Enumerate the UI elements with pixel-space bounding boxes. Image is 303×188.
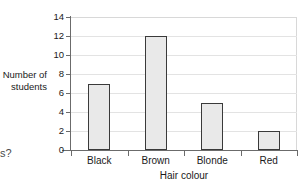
gridline-12 [71,36,297,37]
x-tick-label-black: Black [71,155,128,167]
y-tick-mark-10 [66,55,71,56]
y-tick-label-14: 14 [44,12,64,22]
y-tick-label-8: 8 [44,69,64,79]
bar-brown [145,36,167,150]
y-tick-label-10: 10 [44,50,64,60]
y-tick-label-4: 4 [44,107,64,117]
x-tick-label-brown: Brown [128,155,185,167]
x-axis-line [62,150,298,151]
y-tick-label-2: 2 [44,126,64,136]
y-tick-label-12: 12 [44,31,64,41]
y-tick-mark-12 [66,36,71,37]
bar-red [258,131,280,150]
x-axis-title: Hair colour [71,170,297,181]
y-axis-title-line-1: Number of [0,69,47,81]
bar-chart-screenshot: f s? Number of students 02468101214 Blac… [0,0,303,188]
cropped-text-fragment-top: f [0,12,8,26]
y-axis-title-line-2: students [0,81,47,93]
x-tick-label-red: Red [241,155,298,167]
bar-black [88,84,110,151]
gridline-10 [71,55,297,56]
plot-area [71,17,297,150]
cropped-text-fragment-bottom: s? [0,147,20,159]
bar-blonde [201,103,223,151]
y-tick-label-6: 6 [44,88,64,98]
gridline-8 [71,74,297,75]
y-axis-title: Number of students [0,69,47,92]
y-tick-mark-6 [66,93,71,94]
y-tick-mark-14 [66,17,71,18]
x-tick-mark-4 [297,151,298,156]
y-tick-mark-8 [66,74,71,75]
y-tick-mark-2 [66,131,71,132]
y-tick-mark-4 [66,112,71,113]
y-tick-label-0: 0 [44,145,64,155]
x-tick-label-blonde: Blonde [184,155,241,167]
